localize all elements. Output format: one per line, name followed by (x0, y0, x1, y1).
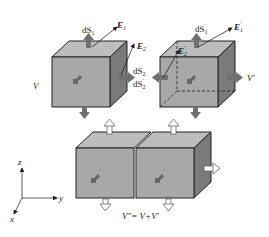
bottom-normal-arrow-icon (79, 107, 90, 119)
cube-v-prime (152, 28, 243, 119)
bottom-normal-prime-arrow-icon (190, 107, 201, 119)
label-e1: E1 (116, 20, 126, 31)
label-ds2: dS2 (133, 66, 146, 77)
z-axis-label: z (17, 157, 22, 167)
combined-volume (76, 119, 220, 211)
label-e1-prime: E1′ (233, 21, 243, 33)
down-arrow-right-icon (163, 199, 174, 211)
x-axis-icon (14, 198, 22, 214)
x-axis-label: x (9, 214, 14, 224)
y-axis-label: y (58, 193, 63, 203)
label-v-prime: V′ (247, 73, 255, 83)
label-ds1-prime: dS1′ (195, 23, 208, 35)
down-arrow-left-icon (100, 199, 111, 211)
diagram-canvas: V dS1 E1 E2 dS2 (0, 0, 269, 237)
coordinate-axes: z y x (9, 157, 63, 224)
label-ds2-prime: dS2′ (133, 78, 146, 90)
label-ds1: dS1 (82, 25, 95, 36)
equation-label: V″= V+V′ (122, 211, 160, 221)
label-v: V (33, 81, 40, 91)
label-e2: E2 (136, 41, 146, 52)
cube-v (52, 27, 135, 119)
